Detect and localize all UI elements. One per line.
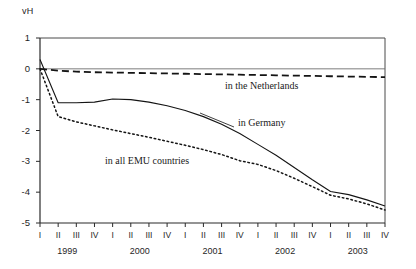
series-line xyxy=(40,69,385,210)
series-line xyxy=(40,60,385,206)
x-tick-label: II xyxy=(201,230,206,240)
x-tick-label: IV xyxy=(381,230,389,240)
x-tick-label: III xyxy=(73,230,80,240)
x-year-label: 2000 xyxy=(130,246,150,256)
series-annotation-netherlands: in the Netherlands xyxy=(225,80,298,91)
y-tick-label: -5 xyxy=(14,217,30,228)
x-tick-label: II xyxy=(274,230,279,240)
x-tick-label: IV xyxy=(236,230,244,240)
x-tick-label: IV xyxy=(163,230,171,240)
x-tick-label: I xyxy=(329,230,331,240)
y-tick-label: -2 xyxy=(14,125,30,136)
chart-plot-area xyxy=(0,0,416,269)
series-annotation-germany: in Germany xyxy=(238,117,286,128)
x-tick-label: II xyxy=(128,230,133,240)
y-tick-label: 0 xyxy=(14,63,30,74)
x-tick-label: II xyxy=(346,230,351,240)
x-tick-label: III xyxy=(145,230,152,240)
y-tick-label: -3 xyxy=(14,155,30,166)
x-tick-label: I xyxy=(257,230,259,240)
x-axis-ticks xyxy=(40,223,385,227)
annotation-leader-lines xyxy=(200,113,234,127)
y-tick-label: 1 xyxy=(14,32,30,43)
series-annotation-emu: in all EMU countries xyxy=(105,155,189,166)
x-tick-label: I xyxy=(111,230,113,240)
x-tick-label: II xyxy=(56,230,61,240)
x-tick-label: III xyxy=(291,230,298,240)
series-line xyxy=(40,69,385,77)
x-year-label: 2002 xyxy=(275,246,295,256)
x-year-label: 2003 xyxy=(348,246,368,256)
x-year-label: 1999 xyxy=(57,246,77,256)
x-tick-label: III xyxy=(218,230,225,240)
y-tick-label: -1 xyxy=(14,94,30,105)
x-tick-label: IV xyxy=(308,230,316,240)
y-tick-label: -4 xyxy=(14,186,30,197)
x-tick-label: I xyxy=(39,230,41,240)
x-tick-label: III xyxy=(363,230,370,240)
data-series-lines xyxy=(40,60,385,210)
chart-figure: vH in the Netherlands in Germany in all … xyxy=(0,0,416,269)
x-tick-label: I xyxy=(184,230,186,240)
x-year-label: 2001 xyxy=(202,246,222,256)
x-tick-label: IV xyxy=(90,230,98,240)
